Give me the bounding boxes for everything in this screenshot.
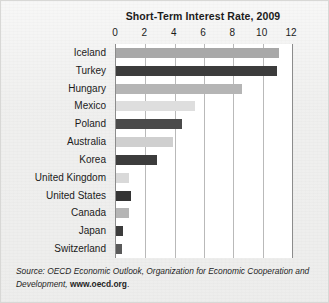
bar-rows: IcelandTurkeyHungaryMexicoPolandAustrali…	[1, 44, 329, 258]
source-suffix: .	[127, 279, 129, 289]
category-label-iceland: Iceland	[74, 48, 106, 58]
bar-row: Australia	[1, 133, 329, 151]
category-label-turkey: Turkey	[76, 66, 106, 76]
x-tick-label-4: 4	[171, 27, 177, 38]
source-citation: Source: OECD Economic Outlook, Organizat…	[16, 265, 316, 290]
bar-row: Canada	[1, 204, 329, 222]
bar-container	[116, 115, 182, 133]
bar-row: Iceland	[1, 44, 329, 62]
category-label-australia: Australia	[67, 137, 106, 147]
category-label-korea: Korea	[79, 155, 106, 165]
x-tick-label-2: 2	[142, 27, 148, 38]
bar-container	[116, 240, 122, 258]
bar-container	[116, 62, 277, 80]
category-label-japan: Japan	[79, 226, 106, 236]
chart-figure: Short-Term Interest Rate, 2009 024681012…	[0, 0, 329, 303]
bar-container	[116, 222, 123, 240]
source-url[interactable]: www.oecd.org	[70, 279, 127, 289]
bar-switzerland	[116, 244, 122, 254]
bar-canada	[116, 208, 129, 218]
category-label-united-kingdom: United Kingdom	[35, 173, 106, 183]
bar-row: Turkey	[1, 62, 329, 80]
x-tick-label-12: 12	[285, 27, 296, 38]
bar-row: Korea	[1, 151, 329, 169]
x-tick-label-8: 8	[230, 27, 236, 38]
bar-row: Hungary	[1, 80, 329, 98]
bar-container	[116, 151, 157, 169]
category-label-mexico: Mexico	[74, 101, 106, 111]
category-label-switzerland: Switzerland	[54, 244, 106, 254]
bar-turkey	[116, 66, 277, 76]
bar-iceland	[116, 48, 279, 58]
x-tick-label-6: 6	[200, 27, 206, 38]
bar-container	[116, 169, 129, 187]
bar-container	[116, 44, 279, 62]
bar-container	[116, 133, 173, 151]
bar-container	[116, 80, 242, 98]
bar-container	[116, 187, 131, 205]
bar-row: Poland	[1, 115, 329, 133]
bar-row: United States	[1, 187, 329, 205]
bar-united-states	[116, 191, 131, 201]
bar-australia	[116, 137, 173, 147]
bar-row: United Kingdom	[1, 169, 329, 187]
category-label-united-states: United States	[46, 191, 106, 201]
bar-container	[116, 97, 195, 115]
bar-mexico	[116, 101, 195, 111]
bar-container	[116, 204, 129, 222]
category-label-canada: Canada	[71, 208, 106, 218]
bar-hungary	[116, 84, 242, 94]
bar-korea	[116, 155, 157, 165]
x-tick-label-10: 10	[256, 27, 267, 38]
bar-row: Mexico	[1, 97, 329, 115]
bar-poland	[116, 119, 182, 129]
bar-japan	[116, 226, 123, 236]
source-prefix: Source: OECD Economic Outlook, Organizat…	[16, 266, 309, 289]
bar-united-kingdom	[116, 173, 129, 183]
chart-title: Short-Term Interest Rate, 2009	[115, 10, 291, 22]
x-tick-label-0: 0	[112, 27, 118, 38]
category-label-poland: Poland	[75, 119, 106, 129]
bar-row: Switzerland	[1, 240, 329, 258]
bar-row: Japan	[1, 222, 329, 240]
category-label-hungary: Hungary	[68, 84, 106, 94]
